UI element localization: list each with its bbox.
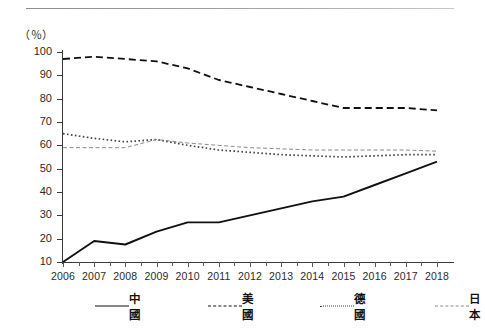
legend-item-日本[interactable]: 日本 (435, 290, 485, 322)
legend-item-美國[interactable]: 美國 (208, 290, 261, 322)
series-line-德國 (63, 134, 437, 157)
legend-label-德國: 德國 (354, 290, 372, 322)
legend-label-美國: 美國 (242, 290, 260, 322)
series-line-美國 (63, 57, 437, 111)
chart-legend: 中國美國德國日本 (63, 296, 455, 316)
legend-line-dotted-icon (320, 301, 347, 311)
legend-item-中國[interactable]: 中國 (95, 290, 148, 322)
legend-item-德國[interactable]: 德國 (320, 290, 373, 322)
legend-line-solid-icon (95, 301, 122, 311)
legend-line-thin-icon (435, 301, 462, 311)
legend-line-dashed-icon (208, 301, 235, 311)
legend-label-中國: 中國 (129, 290, 147, 322)
legend-label-日本: 日本 (469, 290, 485, 322)
series-line-中國 (63, 162, 437, 262)
